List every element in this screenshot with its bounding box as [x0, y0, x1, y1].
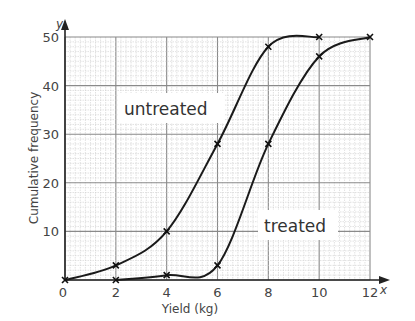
y-tick-label: 50	[42, 30, 59, 45]
grid	[65, 37, 370, 280]
x-tick-label: 10	[311, 285, 328, 300]
y-tick-label: 10	[42, 224, 59, 239]
x-tick-label: 4	[163, 285, 171, 300]
cumulative-frequency-chart: 0246810121020304050 untreated treated Yi…	[0, 0, 415, 321]
y-axis-symbol: y	[55, 17, 64, 31]
axes	[61, 19, 390, 284]
x-tick-label: 6	[213, 285, 221, 300]
untreated-label: untreated	[124, 99, 208, 119]
x-tick-label: 8	[264, 285, 272, 300]
x-tick-label: 2	[112, 285, 120, 300]
x-tick-label: 12	[362, 285, 379, 300]
y-tick-label: 20	[42, 176, 59, 191]
tick-labels: 0246810121020304050	[42, 30, 378, 300]
y-axis-label: Cumulative frequency	[27, 92, 41, 225]
treated-label: treated	[264, 216, 326, 236]
y-tick-label: 40	[42, 79, 59, 94]
x-axis-symbol: x	[379, 283, 388, 297]
x-tick-label: 0	[59, 285, 67, 300]
y-tick-label: 30	[42, 127, 59, 142]
x-axis-label: Yield (kg)	[161, 302, 218, 316]
